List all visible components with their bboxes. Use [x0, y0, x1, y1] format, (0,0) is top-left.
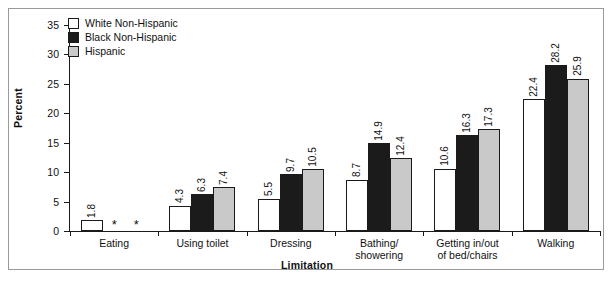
y-axis-tick-label: 35 [0, 20, 59, 31]
y-axis-tick-label: 20 [0, 108, 59, 119]
category-label-line: Walking [537, 238, 574, 250]
y-axis-tick-label: 25 [0, 79, 59, 90]
x-axis-category-label: Getting in/outof bed/chairs [436, 238, 498, 261]
chart-legend: White Non-HispanicBlack Non-HispanicHisp… [68, 17, 178, 58]
legend-item-label: Hispanic [85, 46, 125, 57]
chart-figure: Percent 05101520253035 1.8**4.36.37.45.5… [0, 0, 614, 284]
legend-swatch-black [68, 32, 79, 43]
category-label-line: Eating [99, 238, 129, 250]
bar-value-label: 9.7 [286, 158, 296, 172]
bar-value-label: 5.5 [264, 182, 274, 196]
legend-swatch-gray [68, 46, 79, 57]
legend-item[interactable]: Black Non-Hispanic [68, 31, 178, 44]
bar-slot: 28.2 [545, 25, 567, 231]
y-axis-tick-label: 30 [0, 49, 59, 60]
legend-item-label: Black Non-Hispanic [85, 32, 177, 43]
bar-value-label: 17.3 [484, 107, 494, 126]
bar[interactable] [478, 129, 500, 231]
legend-item-label: White Non-Hispanic [85, 18, 178, 29]
bar-value-label: 12.4 [396, 136, 406, 155]
bar-slot: 25.9 [567, 25, 589, 231]
x-axis-category-label: Bathing/showering [355, 238, 403, 261]
bar-group-bars: 8.714.912.4 [335, 25, 423, 231]
bar[interactable] [302, 169, 324, 231]
bar-value-label: 22.4 [529, 77, 539, 96]
x-axis-category-label: Walking [537, 238, 574, 250]
bar-slot: 22.4 [523, 25, 545, 231]
bar[interactable] [434, 169, 456, 231]
bar-slot: 9.7 [280, 25, 302, 231]
legend-swatch-white [68, 18, 79, 29]
x-axis-group-tick [70, 231, 71, 236]
bar-value-label: 6.3 [197, 178, 207, 192]
x-axis-category-label: Dressing [270, 238, 311, 250]
bar-slot: 17.3 [478, 25, 500, 231]
legend-item[interactable]: White Non-Hispanic [68, 17, 178, 30]
bar-value-label: 25.9 [573, 57, 583, 76]
y-axis-tick-label: 0 [0, 226, 59, 237]
bar-slot: 14.9 [368, 25, 390, 231]
bar-value-label: 1.8 [87, 204, 97, 218]
suppressed-value-marker: * [134, 218, 139, 231]
bar-group-bars: 10.616.317.3 [423, 25, 511, 231]
bar-slot: 10.6 [434, 25, 456, 231]
bar-group: 5.59.710.5 [247, 25, 335, 231]
bar[interactable] [523, 99, 545, 231]
bar-value-label: 10.6 [440, 147, 450, 166]
y-axis-tick-label: 5 [0, 196, 59, 207]
legend-item[interactable]: Hispanic [68, 45, 178, 58]
bar-value-label: 16.3 [462, 113, 472, 132]
bar[interactable] [368, 143, 390, 231]
x-axis-group-tick [247, 231, 248, 236]
category-label-line: Using toilet [177, 238, 229, 250]
bar-value-label: 7.4 [219, 171, 229, 185]
bar-group-bars: 5.59.710.5 [247, 25, 335, 231]
bar[interactable] [346, 180, 368, 231]
category-label-line: Getting in/out [436, 238, 498, 250]
bar-slot: 7.4 [213, 25, 235, 231]
bar[interactable] [280, 174, 302, 231]
x-axis-group-tick [423, 231, 424, 236]
bar-slot: 16.3 [456, 25, 478, 231]
bar[interactable] [191, 194, 213, 231]
x-axis-group-tick [600, 231, 601, 236]
bar-group: 22.428.225.9 [512, 25, 600, 231]
bar-slot: 10.5 [302, 25, 324, 231]
bar-slot: 6.3 [191, 25, 213, 231]
bar-group: 10.616.317.3 [423, 25, 511, 231]
bar[interactable] [456, 135, 478, 231]
bar-slot: 12.4 [390, 25, 412, 231]
x-axis-group-tick [158, 231, 159, 236]
x-axis-group-tick [512, 231, 513, 236]
y-axis-tick-label: 10 [0, 167, 59, 178]
bar-slot: 8.7 [346, 25, 368, 231]
x-axis-title: Limitation [0, 259, 614, 271]
bar[interactable] [169, 206, 191, 231]
bar[interactable] [81, 220, 103, 231]
suppressed-value-marker: * [112, 218, 117, 231]
category-label-line: Bathing/ [355, 238, 403, 250]
bar-group-bars: 22.428.225.9 [512, 25, 600, 231]
bar[interactable] [258, 199, 280, 231]
bar-slot: 5.5 [258, 25, 280, 231]
x-axis-category-label: Eating [99, 238, 129, 250]
bar-value-label: 4.3 [175, 189, 185, 203]
bar[interactable] [390, 158, 412, 231]
x-axis-category-label: Using toilet [177, 238, 229, 250]
bar-value-label: 8.7 [352, 163, 362, 177]
bar-value-label: 14.9 [374, 121, 384, 140]
bar[interactable] [567, 79, 589, 231]
bar[interactable] [213, 187, 235, 231]
y-axis-tick-label: 15 [0, 137, 59, 148]
bar-value-label: 28.2 [551, 43, 561, 62]
x-axis-group-tick [335, 231, 336, 236]
bar-value-label: 10.5 [308, 147, 318, 166]
category-label-line: Dressing [270, 238, 311, 250]
bar-group: 8.714.912.4 [335, 25, 423, 231]
bar[interactable] [545, 65, 567, 231]
